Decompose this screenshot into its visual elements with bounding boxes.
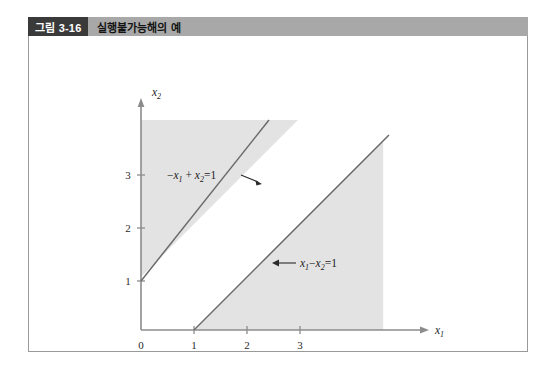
y-axis-arrowhead: [138, 98, 145, 107]
x-tick-label-1: 1: [191, 339, 197, 350]
x-tick-label-2: 2: [244, 339, 250, 350]
annotation-arrow-1-head: [256, 180, 263, 185]
plot-frame: 3 2 1 0 1 2 3 x2 x1 −x1 + x2=1: [28, 36, 528, 352]
constraint-plot: 3 2 1 0 1 2 3 x2 x1 −x1 + x2=1: [29, 36, 527, 350]
figure-caption-title: 실행불가능해의 예: [97, 19, 180, 35]
figure-panel: 그림 3-16 실행불가능해의 예: [28, 17, 528, 352]
y-axis-label: x2: [151, 86, 161, 101]
y-tick-label-3: 3: [125, 169, 131, 181]
y-tick-label-1: 1: [125, 275, 131, 287]
figure-caption-bar: 그림 3-16 실행불가능해의 예: [28, 17, 528, 36]
annotation-arrow-1-shaft: [241, 175, 258, 182]
y-tick-label-2: 2: [125, 222, 131, 234]
x-tick-label-3: 3: [297, 339, 303, 350]
x-axis-label: x1: [434, 324, 444, 339]
x-tick-label-0: 0: [138, 339, 144, 350]
x-axis-arrowhead: [420, 327, 429, 334]
figure-number-badge: 그림 3-16: [28, 17, 88, 36]
